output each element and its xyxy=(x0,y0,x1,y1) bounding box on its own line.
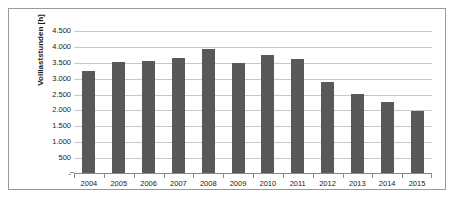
chart-frame: Volllaststunden [h] -5001.0001.5002.0002… xyxy=(8,8,446,190)
y-tick-label: 3.000 xyxy=(31,75,71,83)
y-tick-label: 2.000 xyxy=(31,106,71,114)
tick-mark xyxy=(283,174,284,178)
bar xyxy=(112,62,125,174)
y-axis-tick-labels: -5001.0001.5002.0002.5003.0003.5004.0004… xyxy=(31,9,71,191)
x-tick-label: 2011 xyxy=(283,179,313,191)
bar xyxy=(172,58,185,174)
x-tick-label: 2013 xyxy=(342,179,372,191)
tick-mark xyxy=(313,174,314,178)
y-tick-label: - xyxy=(31,170,71,178)
x-tick-label: 2010 xyxy=(253,179,283,191)
x-tick-label: 2014 xyxy=(372,179,402,191)
bar-slot xyxy=(402,31,432,174)
tick-mark xyxy=(402,174,403,178)
y-tick-label: 1.000 xyxy=(31,138,71,146)
bar xyxy=(202,49,215,174)
x-tick-label: 2009 xyxy=(223,179,253,191)
bar xyxy=(82,71,95,174)
x-axis-tick-marks xyxy=(74,174,432,178)
tick-mark xyxy=(223,174,224,178)
x-tick-label: 2004 xyxy=(74,179,104,191)
tick-mark xyxy=(74,174,75,178)
bar xyxy=(381,102,394,174)
bar-slot xyxy=(283,31,313,174)
x-tick-label: 2008 xyxy=(193,179,223,191)
bar-slot xyxy=(163,31,193,174)
y-tick-label: 4.500 xyxy=(31,27,71,35)
x-tick-label: 2015 xyxy=(402,179,432,191)
bar xyxy=(351,94,364,174)
bar-slot xyxy=(134,31,164,174)
y-tick-label: 3.500 xyxy=(31,59,71,67)
tick-mark xyxy=(431,174,432,178)
x-tick-label: 2007 xyxy=(163,179,193,191)
bar-slot xyxy=(253,31,283,174)
bar-series xyxy=(74,31,432,174)
bar xyxy=(321,82,334,174)
bar-slot xyxy=(223,31,253,174)
bar-slot xyxy=(372,31,402,174)
bar xyxy=(291,59,304,174)
tick-mark xyxy=(164,174,165,178)
y-tick-label: 2.500 xyxy=(31,91,71,99)
x-tick-label: 2005 xyxy=(104,179,134,191)
tick-mark xyxy=(134,174,135,178)
bar-slot xyxy=(342,31,372,174)
plot-area xyxy=(74,31,432,174)
x-tick-label: 2006 xyxy=(134,179,164,191)
tick-mark xyxy=(104,174,105,178)
bar-slot xyxy=(193,31,223,174)
zero-tick-mark xyxy=(70,172,74,173)
bar-slot xyxy=(74,31,104,174)
tick-mark xyxy=(193,174,194,178)
bar-slot xyxy=(104,31,134,174)
tick-mark xyxy=(253,174,254,178)
x-axis-tick-labels: 2004200520062007200820092010201120122013… xyxy=(74,179,432,191)
tick-mark xyxy=(343,174,344,178)
y-tick-label: 1.500 xyxy=(31,122,71,130)
x-tick-label: 2012 xyxy=(313,179,343,191)
y-tick-label: 4.000 xyxy=(31,43,71,51)
bar xyxy=(261,55,274,175)
bar xyxy=(142,61,155,174)
bar-slot xyxy=(313,31,343,174)
chart-figure: Volllaststunden [h] -5001.0001.5002.0002… xyxy=(0,0,456,208)
bar xyxy=(232,63,245,174)
bar xyxy=(411,111,424,174)
tick-mark xyxy=(372,174,373,178)
y-tick-label: 500 xyxy=(31,154,71,162)
